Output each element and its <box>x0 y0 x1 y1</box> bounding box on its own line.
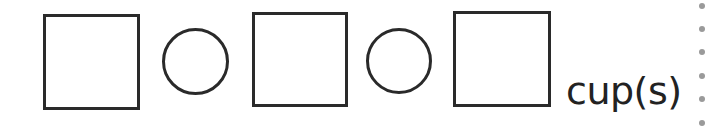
divider-dot <box>699 26 705 32</box>
divider-dot <box>699 96 705 102</box>
operator-circle-1[interactable] <box>162 28 229 95</box>
divider-dot <box>699 49 705 55</box>
answer-box-1[interactable] <box>43 14 140 110</box>
divider-dot <box>699 120 705 126</box>
divider-dot <box>699 73 705 79</box>
divider-dot <box>699 3 705 9</box>
operator-circle-2[interactable] <box>366 28 432 94</box>
answer-box-3[interactable] <box>453 11 551 107</box>
unit-label: cup(s) <box>566 72 682 110</box>
answer-box-2[interactable] <box>252 12 348 107</box>
